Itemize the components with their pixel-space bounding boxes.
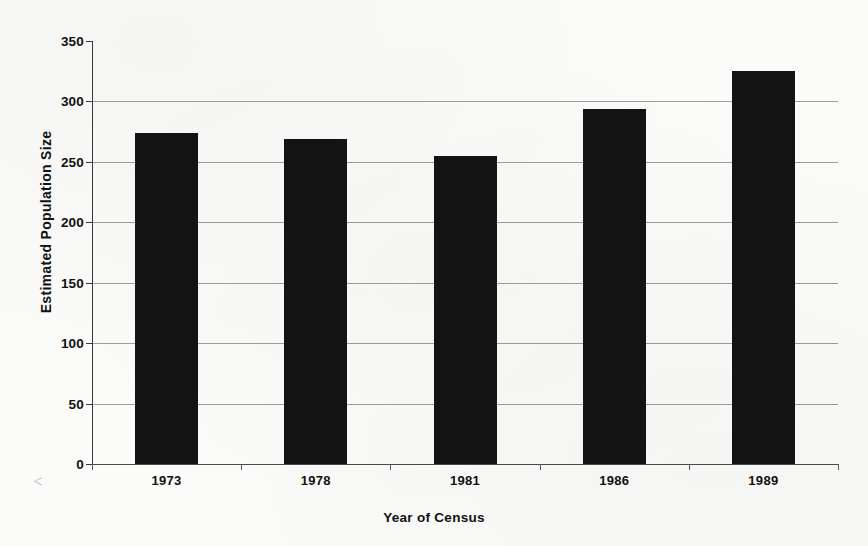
y-axis-tick-label-50: 50 [69, 396, 84, 411]
x-axis-tick-2 [390, 464, 391, 470]
y-axis-tick-150 [86, 283, 93, 284]
y-axis-tick-250 [86, 162, 93, 163]
bar-1986[interactable] [583, 109, 646, 464]
bar-1978[interactable] [284, 139, 347, 464]
x-axis-tick-label-1978: 1978 [241, 473, 390, 488]
x-axis-tick-4 [689, 464, 690, 470]
gridline-300 [92, 101, 838, 102]
y-axis-tick-200 [86, 222, 93, 223]
x-axis-tick-5 [838, 464, 839, 470]
y-axis-title: Estimated Population Size [38, 92, 54, 352]
x-axis-title: Year of Census [0, 510, 868, 525]
x-axis-tick-1 [241, 464, 242, 470]
gridline-0 [92, 464, 838, 465]
bar-1989[interactable] [732, 71, 795, 464]
x-axis-tick-label-1989: 1989 [689, 473, 838, 488]
bar-1981[interactable] [434, 156, 497, 464]
y-axis-tick-label-300: 300 [61, 94, 84, 109]
x-axis-tick-3 [540, 464, 541, 470]
x-axis-tick-0 [92, 464, 93, 470]
y-axis-tick-label-350: 350 [61, 34, 84, 49]
plot-area [92, 41, 838, 464]
scan-artifact-mark: < [33, 472, 43, 492]
y-axis-tick-50 [86, 404, 93, 405]
x-axis-tick-label-1973: 1973 [92, 473, 241, 488]
y-axis-tick-label-200: 200 [61, 215, 84, 230]
chart-page: 050100150200250300350 197319781981198619… [0, 0, 868, 546]
x-axis-tick-label-1986: 1986 [540, 473, 689, 488]
y-axis-tick-label-0: 0 [76, 457, 84, 472]
y-axis-tick-label-250: 250 [61, 154, 84, 169]
y-axis-tick-label-100: 100 [61, 336, 84, 351]
bar-1973[interactable] [135, 133, 198, 464]
y-axis-tick-350 [86, 41, 93, 42]
y-axis-tick-100 [86, 343, 93, 344]
y-axis-tick-300 [86, 101, 93, 102]
y-axis-tick-label-150: 150 [61, 275, 84, 290]
x-axis-tick-label-1981: 1981 [390, 473, 539, 488]
